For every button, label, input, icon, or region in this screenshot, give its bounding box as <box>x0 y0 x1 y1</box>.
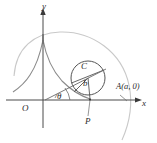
x-axis-arrowhead <box>135 97 142 102</box>
circle-center-label: C <box>81 62 87 71</box>
y-axis-label: y <box>42 2 46 11</box>
x-axis-label: x <box>142 99 146 108</box>
origin-label: O <box>22 104 29 113</box>
angle-theta-label: θ <box>57 92 61 101</box>
point-p-dot <box>89 98 91 100</box>
math-diagram: y x O P C b θ A(a, 0) <box>0 0 157 143</box>
radius-b-segment <box>88 78 90 99</box>
point-a-label: A(a, 0) <box>116 82 140 91</box>
tractrix-left-branch <box>13 40 43 92</box>
diagram-canvas <box>0 0 157 143</box>
point-p-label: P <box>85 117 91 126</box>
point-p-leader <box>88 100 90 116</box>
theta-ray <box>45 69 106 100</box>
radius-b-label: b <box>83 79 88 88</box>
